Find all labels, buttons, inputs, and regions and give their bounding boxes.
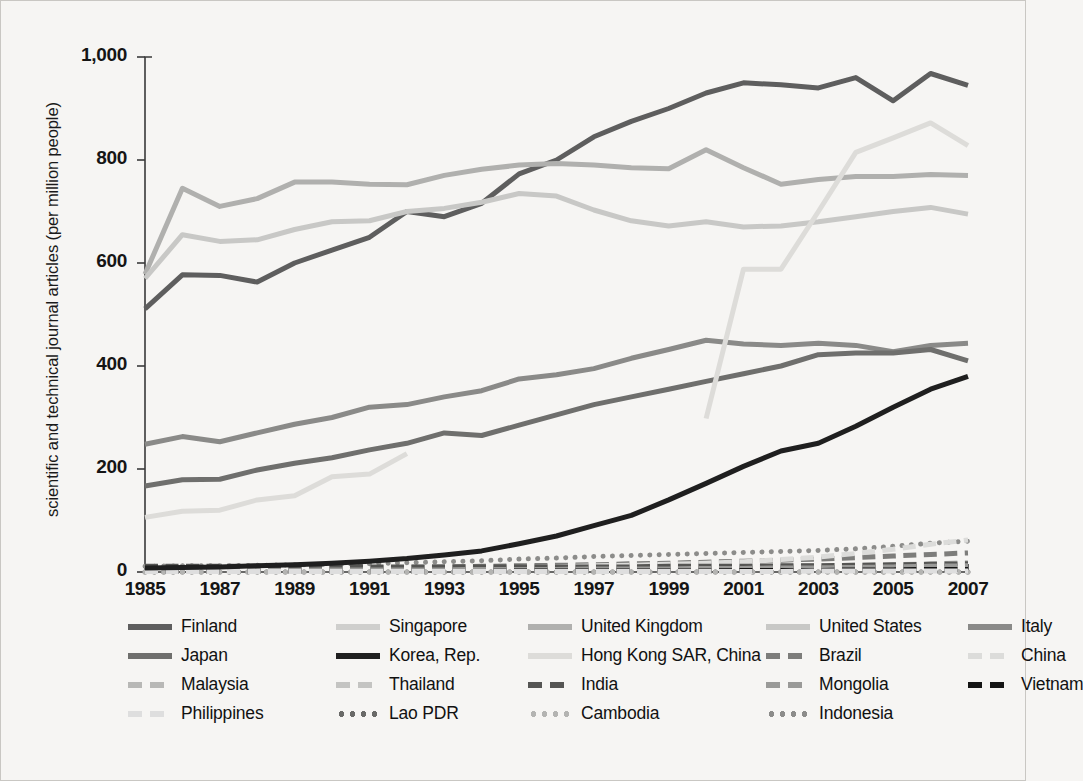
x-tick-label: 1985 — [110, 578, 180, 600]
legend-swatch-icon — [336, 711, 380, 717]
series-line — [145, 350, 968, 487]
legend-item[interactable]: Hong Kong SAR, China — [528, 641, 761, 670]
legend-swatch-icon — [766, 653, 810, 659]
legend-item[interactable]: United Kingdom — [528, 612, 703, 641]
legend-item[interactable]: Korea, Rep. — [336, 641, 480, 670]
legend-item[interactable]: Indonesia — [766, 699, 893, 728]
legend-swatch-icon — [968, 624, 1012, 630]
legend-swatch-icon — [766, 624, 810, 630]
legend-swatch-icon — [528, 711, 572, 717]
legend-label: India — [581, 676, 618, 694]
legend-swatch-icon — [968, 653, 1012, 659]
legend-label: Japan — [181, 647, 228, 665]
legend-item[interactable]: Finland — [128, 612, 237, 641]
x-tick-label: 1987 — [185, 578, 255, 600]
y-tick-label: 200 — [57, 456, 127, 478]
legend-swatch-icon — [128, 653, 172, 659]
x-tick-label: 1991 — [334, 578, 404, 600]
y-tick-label: 600 — [57, 250, 127, 272]
legend-swatch-icon — [528, 653, 572, 659]
legend-swatch-icon — [968, 682, 1012, 688]
legend-label: Indonesia — [819, 705, 893, 723]
legend-swatch-icon — [128, 624, 172, 630]
y-tick-label: 400 — [57, 353, 127, 375]
x-tick-label: 1997 — [559, 578, 629, 600]
legend-row: PhilippinesLao PDRCambodiaIndonesia — [128, 699, 1008, 728]
legend-row: FinlandSingaporeUnited KingdomUnited Sta… — [128, 612, 1008, 641]
legend-label: Finland — [181, 618, 237, 636]
chart-legend: FinlandSingaporeUnited KingdomUnited Sta… — [128, 612, 1008, 728]
legend-label: Cambodia — [581, 705, 659, 723]
legend-swatch-icon — [128, 711, 172, 717]
legend-item[interactable]: Singapore — [336, 612, 467, 641]
x-tick-label: 2007 — [933, 578, 1003, 600]
legend-swatch-icon — [336, 682, 380, 688]
legend-label: Brazil — [819, 647, 862, 665]
legend-item[interactable]: Lao PDR — [336, 699, 459, 728]
legend-label: Italy — [1021, 618, 1052, 636]
legend-label: Vietnam — [1021, 676, 1083, 694]
legend-swatch-icon — [336, 624, 380, 630]
legend-label: United States — [819, 618, 921, 636]
legend-item[interactable]: Vietnam — [968, 670, 1083, 699]
legend-swatch-icon — [528, 624, 572, 630]
legend-item[interactable]: Philippines — [128, 699, 263, 728]
x-tick-label: 1999 — [634, 578, 704, 600]
legend-swatch-icon — [128, 682, 172, 688]
series-line — [145, 376, 968, 568]
legend-swatch-icon — [766, 711, 810, 717]
legend-swatch-icon — [336, 653, 380, 659]
legend-label: United Kingdom — [581, 618, 703, 636]
legend-label: China — [1021, 647, 1066, 665]
legend-label: Thailand — [389, 676, 455, 694]
y-tick-marks — [137, 57, 145, 572]
x-tick-label: 2005 — [858, 578, 928, 600]
axis-lines — [145, 57, 968, 572]
legend-item[interactable]: Japan — [128, 641, 228, 670]
legend-item[interactable]: Italy — [968, 612, 1052, 641]
legend-item[interactable]: Malaysia — [128, 670, 248, 699]
legend-label: Singapore — [389, 618, 467, 636]
x-tick-label: 1989 — [260, 578, 330, 600]
y-tick-label: 1,000 — [57, 44, 127, 66]
series-line — [145, 571, 968, 572]
legend-item[interactable]: China — [968, 641, 1066, 670]
legend-label: Malaysia — [181, 676, 248, 694]
legend-label: Mongolia — [819, 676, 888, 694]
legend-row: MalaysiaThailandIndiaMongoliaVietnam — [128, 670, 1008, 699]
legend-item[interactable]: Mongolia — [766, 670, 888, 699]
legend-label: Korea, Rep. — [389, 647, 480, 665]
legend-swatch-icon — [528, 682, 572, 688]
legend-label: Lao PDR — [389, 705, 459, 723]
legend-label: Hong Kong SAR, China — [581, 647, 761, 665]
legend-swatch-icon — [766, 682, 810, 688]
x-tick-label: 2001 — [709, 578, 779, 600]
legend-label: Philippines — [181, 705, 263, 723]
x-tick-label: 1993 — [409, 578, 479, 600]
legend-item[interactable]: Brazil — [766, 641, 862, 670]
legend-item[interactable]: Thailand — [336, 670, 455, 699]
legend-item[interactable]: United States — [766, 612, 921, 641]
series-line — [145, 454, 407, 518]
legend-item[interactable]: Cambodia — [528, 699, 659, 728]
series-layer — [145, 74, 968, 573]
legend-row: JapanKorea, Rep.Hong Kong SAR, ChinaBraz… — [128, 641, 1008, 670]
series-line — [145, 194, 968, 279]
y-tick-label: 800 — [57, 147, 127, 169]
x-tick-label: 1995 — [484, 578, 554, 600]
legend-item[interactable]: India — [528, 670, 618, 699]
x-tick-label: 2003 — [783, 578, 853, 600]
